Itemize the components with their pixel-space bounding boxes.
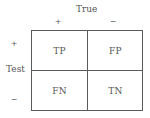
cell-false-negative: FN xyxy=(32,71,87,110)
column-sign-positive: + xyxy=(51,18,65,26)
cell-true-negative: TN xyxy=(88,71,143,110)
row-header: Test xyxy=(6,64,25,74)
matrix-grid: TP FP FN TN xyxy=(31,30,143,111)
cell-true-positive: TP xyxy=(32,31,87,70)
row-sign-negative: − xyxy=(7,96,21,104)
column-header: True xyxy=(76,4,97,14)
column-sign-negative: − xyxy=(106,18,120,26)
cell-false-positive: FP xyxy=(88,31,143,70)
row-sign-positive: + xyxy=(7,40,21,48)
